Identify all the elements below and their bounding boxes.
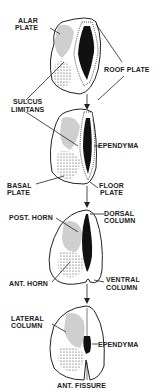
ventral-column-label-1: VENTRAL	[106, 276, 140, 283]
ant-fissure-label: ANT. FISSURE	[57, 382, 106, 389]
dorsal-column-label-2: COLUMN	[104, 217, 135, 224]
ependyma-label: EPENDYMA	[98, 142, 138, 149]
alar-plate-label-2: PLATE	[15, 24, 38, 31]
sulcus-limitans-label-1: SULCUS	[13, 98, 42, 105]
lateral-column-label-1: LATERAL	[11, 315, 44, 322]
lateral-column-label-2: COLUMN	[11, 322, 42, 329]
floor-plate-label-2: PLATE	[100, 189, 123, 196]
basal-plate-label-2: PLATE	[7, 189, 30, 196]
basal-plate-label-1: BASAL	[7, 182, 32, 189]
stage-3-spinal-cord	[49, 210, 102, 284]
stage-2-neural-tube	[50, 109, 96, 184]
floor-plate-label-1: FLOOR	[99, 182, 124, 189]
ant-horn-label: ANT. HORN	[9, 280, 48, 287]
stage-4-spinal-cord	[50, 306, 104, 380]
ependyma-label-2: EPENDYMA	[98, 341, 138, 348]
roof-plate-label: ROOF PLATE	[104, 66, 150, 73]
sulcus-limitans-label-2: LIMITANS	[11, 106, 44, 113]
spinal-cord-diagram	[0, 0, 158, 392]
ventral-column-label-2: COLUMN	[106, 284, 137, 291]
dorsal-column-label-1: DORSAL	[104, 210, 134, 217]
alar-plate-label-1: ALAR	[18, 17, 38, 24]
post-horn-label: POST. HORN	[9, 214, 53, 221]
stage-1-neural-tube	[50, 18, 100, 94]
